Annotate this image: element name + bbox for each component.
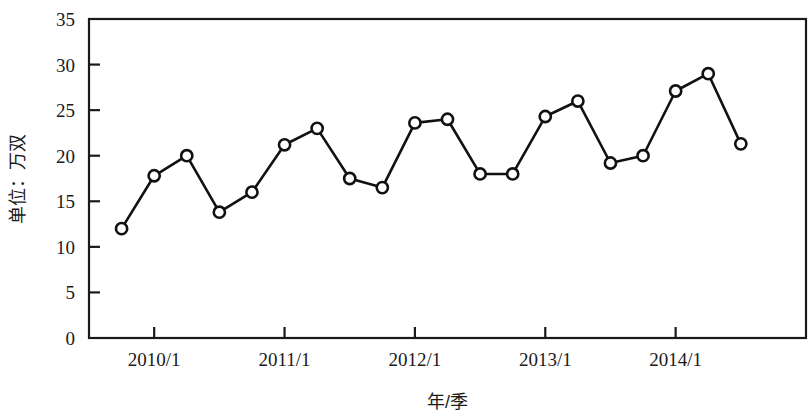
data-point-marker[interactable]: [214, 207, 225, 218]
data-point-marker[interactable]: [670, 85, 681, 96]
data-point-marker[interactable]: [312, 123, 323, 134]
data-point-marker[interactable]: [637, 150, 648, 161]
data-point-marker[interactable]: [181, 150, 192, 161]
y-axis-tick-label: 35: [56, 9, 75, 30]
data-point-marker[interactable]: [116, 223, 127, 234]
data-point[interactable]: 2013/4: 20: [637, 150, 648, 161]
data-point-marker[interactable]: [605, 157, 616, 168]
x-axis-tick-label: 2014/1: [649, 349, 702, 370]
data-point-marker[interactable]: [442, 114, 453, 125]
line-chart: 051015202530352010/12011/12012/12013/120…: [0, 0, 809, 420]
data-point[interactable]: 2013/2: 26: [572, 95, 583, 106]
y-axis-tick-label: 0: [66, 328, 76, 349]
x-axis-title: 年/季: [427, 392, 468, 412]
data-point-marker[interactable]: [344, 173, 355, 184]
data-point[interactable]: 2010/2: 20: [181, 150, 192, 161]
y-axis-tick-label: 20: [56, 146, 75, 167]
data-point[interactable]: 2010/3: 13.8: [214, 207, 225, 218]
x-axis-tick-label: 2013/1: [519, 349, 572, 370]
data-point[interactable]: 2012/2: 24: [442, 114, 453, 125]
chart-figure: 051015202530352010/12011/12012/12013/120…: [0, 0, 809, 420]
data-point[interactable]: 2014/1: 27.1: [670, 85, 681, 96]
data-point-marker[interactable]: [735, 138, 746, 149]
y-axis-tick-label: 15: [56, 191, 75, 212]
data-point-marker[interactable]: [507, 168, 518, 179]
y-axis-tick-label: 5: [66, 282, 76, 303]
data-point-marker[interactable]: [474, 168, 485, 179]
x-axis-tick-label: 2010/1: [128, 349, 181, 370]
data-point-marker[interactable]: [246, 187, 257, 198]
plot-frame: [89, 19, 806, 338]
data-point[interactable]: 2012/3: 18: [474, 168, 485, 179]
y-axis-tick-label: 30: [56, 55, 75, 76]
data-point-marker[interactable]: [703, 68, 714, 79]
data-point[interactable]: 2011/2: 23: [312, 123, 323, 134]
data-point[interactable]: 2014/3: 21.3: [735, 138, 746, 149]
data-point[interactable]: 2009/4: 12: [116, 223, 127, 234]
data-point[interactable]: 2011/4: 16.5: [377, 182, 388, 193]
data-point-marker[interactable]: [572, 95, 583, 106]
data-point[interactable]: 2012/4: 18: [507, 168, 518, 179]
y-axis-title: 单位：万双: [8, 134, 28, 224]
data-point-marker[interactable]: [540, 111, 551, 122]
data-point[interactable]: 2011/1: 21.2: [279, 139, 290, 150]
data-point[interactable]: 2013/3: 19.2: [605, 157, 616, 168]
data-point-marker[interactable]: [149, 170, 160, 181]
data-point[interactable]: 2010/1: 17.8: [149, 170, 160, 181]
data-point[interactable]: 2014/2: 29: [703, 68, 714, 79]
data-point-marker[interactable]: [279, 139, 290, 150]
y-axis-tick-label: 10: [56, 237, 75, 258]
x-axis-tick-label: 2012/1: [389, 349, 442, 370]
data-point[interactable]: 2012/1: 23.6: [409, 117, 420, 128]
data-point-marker[interactable]: [409, 117, 420, 128]
data-point-marker[interactable]: [377, 182, 388, 193]
data-point[interactable]: 2010/4: 16: [246, 187, 257, 198]
y-axis-tick-label: 25: [56, 100, 75, 121]
data-point[interactable]: 2013/1: 24.3: [540, 111, 551, 122]
data-point[interactable]: 2011/3: 17.5: [344, 173, 355, 184]
x-axis-tick-label: 2011/1: [259, 349, 311, 370]
